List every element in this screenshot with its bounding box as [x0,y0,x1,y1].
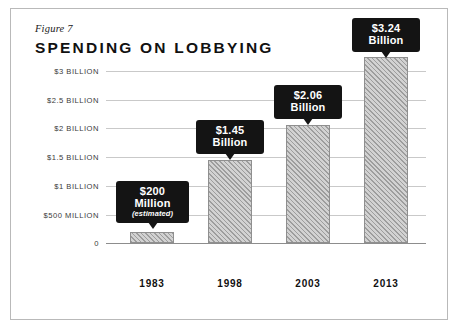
xlabel-1983: 1983 [122,278,182,289]
ytick-label-1-billion: $1 BILLION [54,181,99,190]
ytick-label-zero: 0 [94,239,99,248]
bar-1998[interactable] [208,160,252,243]
data-label-1983: $200 Million (estimated) [116,181,189,223]
data-label-2003-value: $2.06 [281,89,335,101]
ytick-label-500-million: $500 MILLION [44,210,99,219]
bar-2013[interactable] [364,57,408,243]
ytick-label-2-billion: $2 BILLION [54,124,99,133]
data-label-2013-unit: Billion [359,34,413,46]
figure-card: Figure 7 SPENDING ON LOBBYING $3 BILLION… [10,8,448,320]
data-label-1983-value: $200 [123,185,182,197]
data-label-1983-unit: Million [123,197,182,209]
data-label-1998-unit: Billion [203,136,257,148]
axis-baseline-zero: 0 [106,243,426,244]
data-label-1983-note: (estimated) [123,210,182,218]
callout-tail-icon [381,51,391,58]
data-label-1998: $1.45 Billion [196,120,264,154]
bar-1983[interactable] [130,232,174,244]
callout-tail-icon [303,118,313,125]
data-label-2003: $2.06 Billion [274,85,342,119]
callout-tail-icon [148,222,158,229]
ytick-label-2-5-billion: $2.5 BILLION [47,95,99,104]
chart-title: SPENDING ON LOBBYING [35,39,274,57]
bar-2003[interactable] [286,125,330,243]
data-label-2003-unit: Billion [281,101,335,113]
figure-label: Figure 7 [35,23,73,34]
plot-area: $3 BILLION $2.5 BILLION $2 BILLION $1.5 … [106,71,426,272]
callout-tail-icon [225,153,235,160]
data-label-1998-value: $1.45 [203,124,257,136]
ytick-label-1-5-billion: $1.5 BILLION [47,153,99,162]
data-label-2013-value: $3.24 [359,22,413,34]
xlabel-2013: 2013 [356,278,416,289]
xlabel-2003: 2003 [278,278,338,289]
xlabel-1998: 1998 [200,278,260,289]
data-label-2013: $3.24 Billion [352,18,420,52]
ytick-label-3-billion: $3 BILLION [54,67,99,76]
